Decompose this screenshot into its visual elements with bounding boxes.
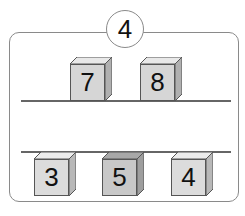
cube-value: 3 xyxy=(34,159,69,196)
cube-top-1: 7 xyxy=(70,57,112,101)
cube-bottom-1: 3 xyxy=(34,152,76,196)
cube-value: 5 xyxy=(102,159,137,196)
cube-value: 7 xyxy=(70,64,105,101)
cube-side-face xyxy=(137,152,144,196)
cube-side-face xyxy=(105,57,112,101)
cube-bottom-2: 5 xyxy=(102,152,144,196)
cube-value: 4 xyxy=(171,159,206,196)
top-shelf-line xyxy=(21,100,231,102)
cube-side-face xyxy=(175,57,182,101)
number-badge: 4 xyxy=(106,10,144,48)
cube-bottom-3: 4 xyxy=(171,152,213,196)
cube-value: 8 xyxy=(140,64,175,101)
cube-side-face xyxy=(206,152,213,196)
cube-side-face xyxy=(69,152,76,196)
badge-number: 4 xyxy=(118,14,132,45)
cube-top-2: 8 xyxy=(140,57,182,101)
